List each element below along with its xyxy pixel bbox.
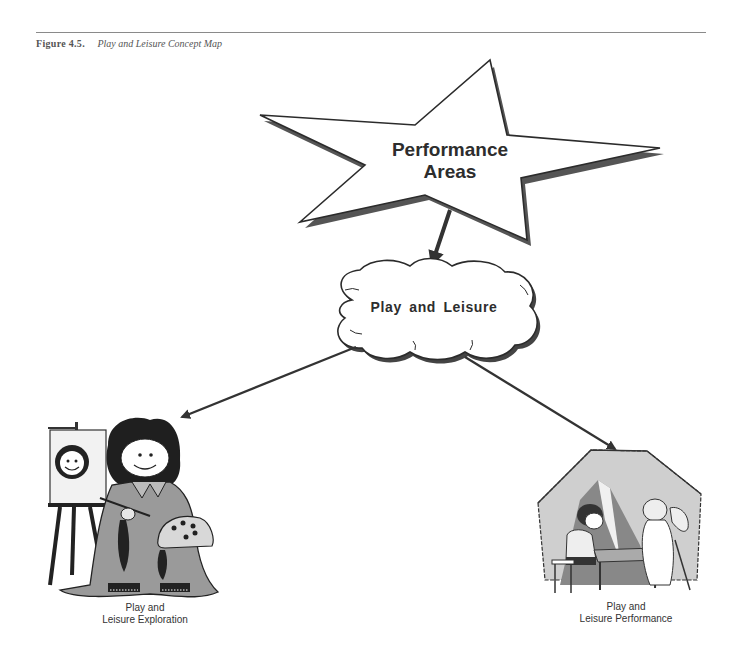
- leisure-exploration-label: Play and Leisure Exploration: [70, 602, 220, 626]
- leisure-performance-label: Play and Leisure Performance: [546, 601, 706, 625]
- painting-child-illustration: [48, 418, 218, 597]
- left-label-line2: Leisure Exploration: [70, 614, 220, 626]
- arrow-middle-to-left: [182, 347, 356, 417]
- play-and-leisure-label: Play and Leisure: [334, 299, 534, 315]
- right-label-line1: Play and: [546, 601, 706, 613]
- performance-areas-label: Performance Areas: [350, 139, 550, 183]
- right-label-line2: Leisure Performance: [546, 613, 706, 625]
- left-label-line1: Play and: [70, 602, 220, 614]
- tent-children-illustration: [538, 450, 701, 593]
- concept-map: [0, 0, 740, 661]
- arrow-root-to-middle: [432, 210, 450, 264]
- arrow-middle-to-right: [465, 357, 615, 449]
- star-label-line2: Areas: [350, 161, 550, 183]
- star-label-line1: Performance: [350, 139, 550, 161]
